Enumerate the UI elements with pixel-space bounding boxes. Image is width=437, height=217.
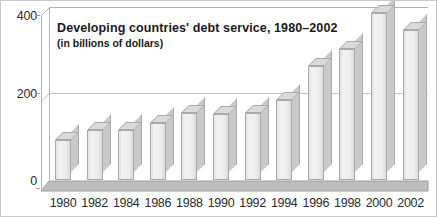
bar-face-1992 [245, 113, 261, 180]
bar-2000[interactable] [371, 7, 387, 180]
chart-figure: 400 200 0 198019821984198619881990199219… [0, 0, 437, 217]
bar-2002[interactable] [403, 7, 419, 180]
chart-subtitle: (in billions of dollars) [57, 38, 338, 50]
bar-face-2000 [371, 13, 387, 180]
bar-face-1988 [181, 113, 197, 180]
bar-1998[interactable] [339, 7, 355, 180]
bar-face-1994 [276, 100, 292, 180]
y-axis: 400 200 0 [1, 1, 37, 217]
chart-floor [41, 180, 429, 192]
y-tick-label-400: 400 [3, 9, 37, 23]
gridline-200-depth-connector [40, 92, 52, 104]
x-tick-label-2002: 2002 [391, 196, 431, 210]
bar-face-1980 [55, 140, 71, 180]
chart-title: Developing countries' debt service, 1980… [57, 22, 338, 36]
bar-face-1990 [213, 114, 229, 180]
bar-side-2000 [387, 0, 395, 172]
y-tick-mark-400 [36, 15, 40, 16]
title-block: Developing countries' debt service, 1980… [57, 22, 338, 49]
bar-side-1998 [355, 33, 363, 172]
bar-face-2002 [403, 30, 419, 180]
bar-face-1998 [339, 49, 355, 180]
bar-side-2002 [419, 14, 427, 172]
y-tick-label-0: 0 [3, 174, 37, 188]
bar-face-1986 [150, 123, 166, 180]
bar-face-1982 [87, 130, 103, 180]
bar-face-1984 [118, 130, 134, 180]
y-tick-mark-0 [36, 188, 40, 189]
bar-side-1996 [324, 50, 332, 172]
bar-face-1996 [308, 66, 324, 180]
y-tick-label-200: 200 [3, 87, 37, 101]
axis-depth-connector-top [41, 7, 51, 17]
